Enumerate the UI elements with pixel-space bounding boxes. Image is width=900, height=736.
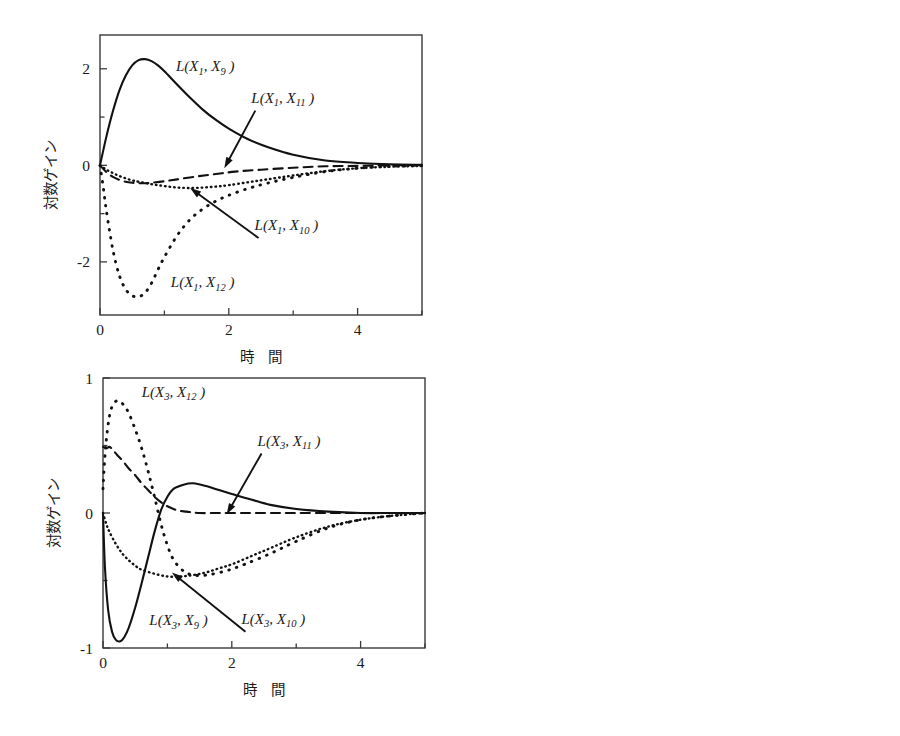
series-annotation: L(X1, X9 ) xyxy=(175,58,234,77)
y-axis-label: 対数ゲイン xyxy=(46,478,62,548)
y-tick-label: 1 xyxy=(85,370,93,387)
series-label: L(X1, X11 ) xyxy=(250,90,314,109)
y-tick-label: 2 xyxy=(82,60,90,77)
x-tick-label: 0 xyxy=(96,321,104,338)
series-annotation: L(X1, X12 ) xyxy=(170,274,235,293)
series-annotation: L(X3, X12 ) xyxy=(141,384,206,403)
series-annotation: L(X3, X11 ) xyxy=(227,433,321,515)
annotation-arrow-line xyxy=(228,111,255,162)
series-label: L(X1, X12 ) xyxy=(170,274,235,293)
y-tick-label: 0 xyxy=(85,505,93,522)
x-tick-label: 0 xyxy=(99,654,107,671)
series-label: L(X3, X10 ) xyxy=(240,611,305,630)
x-tick-label: 4 xyxy=(357,654,365,671)
y-axis-label: 対数ゲイン xyxy=(43,140,59,210)
annotation-arrowhead xyxy=(224,157,232,168)
x-tick-label: 4 xyxy=(354,321,362,338)
x-tick-label: 2 xyxy=(228,654,236,671)
x-axis-label: 時 間 xyxy=(240,349,282,365)
series-label: L(X3, X9 ) xyxy=(148,612,207,631)
series-label: L(X1, X9 ) xyxy=(175,58,234,77)
annotation-arrow-line xyxy=(231,454,262,508)
x-tick-label: 2 xyxy=(225,321,233,338)
y-tick-label: 0 xyxy=(82,157,90,174)
annotation-arrow-line xyxy=(197,193,259,238)
chart-panel-3: 02410-1時 間対数ゲインL(X3, X12 )L(X3, X11 )L(X… xyxy=(0,368,450,736)
series-curve-lx1x9 xyxy=(100,59,422,165)
chart-panel-1: 02420-2時 間対数ゲインL(X1, X9 )L(X1, X11 )L(X1… xyxy=(0,0,450,368)
chart-panel-4: 0240.40-0.4時 間対数ゲインL(X4, X12 )L(X4, X10 … xyxy=(450,368,900,736)
x-axis-label: 時 間 xyxy=(243,682,285,698)
plot-frame xyxy=(100,35,422,315)
y-tick-label: -2 xyxy=(77,253,90,270)
series-label: L(X1, X10 ) xyxy=(254,217,319,236)
series-annotation: L(X1, X10 ) xyxy=(190,188,318,238)
figure-multipanel-chart: 02420-2時 間対数ゲインL(X1, X9 )L(X1, X11 )L(X1… xyxy=(0,0,900,736)
y-tick-label: -1 xyxy=(80,640,93,657)
series-annotation: L(X3, X9 ) xyxy=(148,612,207,631)
series-label: L(X3, X11 ) xyxy=(257,433,321,452)
chart-panel-2: 02410-1時 間対数ゲインL(X2, X12 )L(X2, X11 )L(X… xyxy=(450,0,900,368)
series-label: L(X3, X12 ) xyxy=(141,384,206,403)
series-curve-lx3x12 xyxy=(103,401,425,576)
